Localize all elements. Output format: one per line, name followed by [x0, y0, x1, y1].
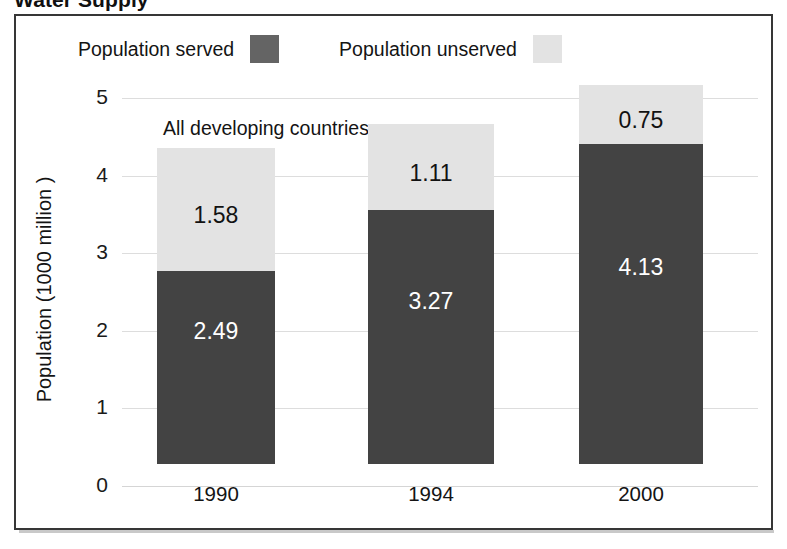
x-tick-label-1990: 1990 — [157, 482, 275, 506]
bar-value-unserved-2000: 0.75 — [619, 109, 664, 132]
x-tick-label-1994: 1994 — [368, 482, 494, 506]
bar-segment-unserved-2000[interactable]: 0.75 — [579, 85, 703, 143]
bar-segment-unserved-1990[interactable]: 1.58 — [157, 148, 275, 271]
y-axis-title: Population (1000 million ) — [33, 110, 56, 470]
bar-value-served-1990: 2.49 — [194, 320, 239, 343]
y-tick-label-4: 4 — [78, 163, 108, 187]
bar-value-unserved-1990: 1.58 — [194, 204, 239, 227]
bar-group-1994[interactable]: 1.11 3.27 — [368, 124, 494, 464]
y-tick-label-0: 0 — [78, 473, 108, 497]
x-tick-label-2000: 2000 — [579, 482, 703, 506]
bar-segment-served-1990[interactable]: 2.49 — [157, 271, 275, 464]
y-tick-label-3: 3 — [78, 240, 108, 264]
chart-annotation: All developing countries — [163, 117, 369, 140]
bar-group-1990[interactable]: 1.58 2.49 — [157, 148, 275, 464]
y-tick-label-1: 1 — [78, 395, 108, 419]
bar-segment-served-1994[interactable]: 3.27 — [368, 210, 494, 464]
chart-frame: Population served Population unserved Po… — [14, 14, 773, 530]
bar-value-served-2000: 4.13 — [619, 256, 664, 279]
bar-group-2000[interactable]: 0.75 4.13 — [579, 85, 703, 464]
y-tick-label-2: 2 — [78, 318, 108, 342]
plot-area: Population (1000 million ) 5 4 3 2 1 0 A… — [16, 16, 771, 528]
bar-segment-served-2000[interactable]: 4.13 — [579, 144, 703, 465]
figure-title: Water Supply — [14, 0, 149, 12]
bar-value-unserved-1994: 1.11 — [409, 162, 452, 185]
bar-value-served-1994: 3.27 — [409, 290, 454, 313]
y-tick-label-5: 5 — [78, 85, 108, 109]
bar-segment-unserved-1994[interactable]: 1.11 — [368, 124, 494, 210]
